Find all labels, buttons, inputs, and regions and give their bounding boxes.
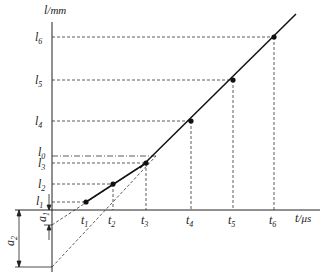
lower-segment [86,163,146,202]
a2-arrowhead-bottom [17,261,21,267]
label-l4: l4 [35,114,42,130]
point-6 [271,34,276,39]
point-1 [83,199,88,204]
point-2 [110,181,115,186]
a2-extrapolation [52,156,156,267]
label-a2: a2 [3,236,19,246]
label-t4: t4 [186,213,193,229]
label-l6: l6 [35,30,42,46]
time-vs-length-diagram: l/mm t/μs l6 l5 l4 l0 l3 l2 l1 t [0,0,325,279]
label-t2: t2 [108,213,115,229]
a2-arrowhead-top [17,210,21,216]
label-a1: a1 [35,212,51,222]
a1-arrowhead-upper [47,205,51,210]
point-5 [230,77,235,82]
x-axis-label: t/μs [295,211,311,225]
label-l5: l5 [35,73,42,89]
label-t6: t6 [269,213,276,229]
label-l2: l2 [38,177,45,193]
a1-arrowhead-lower [47,225,51,230]
y-axis-label: l/mm [44,3,66,17]
point-3 [143,160,148,165]
label-t5: t5 [228,213,235,229]
label-l1: l1 [36,194,43,210]
label-t3: t3 [141,213,148,229]
point-4 [188,118,193,123]
label-t1: t1 [81,213,88,229]
